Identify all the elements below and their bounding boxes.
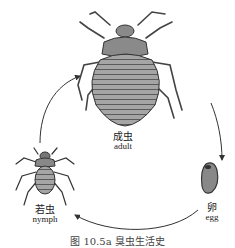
arrow-egg-to-nymph (75, 210, 198, 229)
adult-bedbug-illustration (78, 12, 182, 126)
arrow-nymph-to-adult (40, 76, 80, 143)
nymph-label-en: nymph (25, 215, 65, 224)
nymph-label: 若虫 nymph (25, 205, 65, 224)
arrow-adult-to-egg (211, 103, 222, 160)
nymph-illustration (16, 148, 74, 205)
adult-label-en: adult (103, 142, 143, 151)
adult-label: 成虫 adult (103, 132, 143, 151)
figure-caption: 图 10.5a 臭虫生活史 (0, 233, 235, 248)
egg-label-en: egg (197, 213, 227, 222)
egg-illustration (202, 163, 218, 193)
egg-label: 卵 egg (197, 203, 227, 222)
